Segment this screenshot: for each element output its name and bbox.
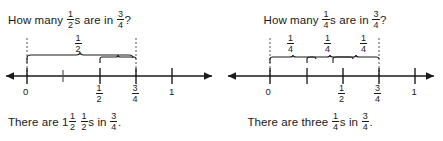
question-target-fraction: 3 4 (117, 10, 124, 31)
question-unit-fraction: 1 4 (322, 10, 329, 31)
number-line-quarter: 1 4 1 4 1 4 0 1 2 (222, 34, 443, 100)
answer-count-whole: 1 (62, 117, 69, 129)
answer-text-half: There are 1 1 2 1 2 s in 3 4 . (8, 112, 121, 133)
brace-label-quarter-3: 1 4 (360, 34, 368, 55)
question-unit-fraction: 1 2 (67, 10, 74, 31)
brace-half-to-threequarter (100, 55, 136, 63)
answer-text-quarter: There are three 1 4 s in 3 4 . (248, 112, 373, 133)
question-prefix: How many (8, 15, 63, 27)
brace-half-to-threequarter (333, 55, 379, 63)
axis-arrow-right (204, 72, 212, 80)
tick-label-1: 1 (169, 86, 174, 97)
panel-quarter: How many 1 4 s are in 3 4 ? (222, 0, 443, 141)
tick-label-half: 1 2 (95, 84, 103, 105)
answer-unit-fraction: 1 2 (81, 112, 88, 133)
tick-label-threequarter: 3 4 (131, 84, 139, 105)
tick-label-threequarter: 3 4 (374, 84, 382, 105)
axis-arrow-right (426, 72, 434, 80)
answer-prefix: There are (8, 117, 59, 129)
number-line-half: 1 2 0 1 2 3 4 1 (0, 34, 222, 100)
brace-0-to-quarter (270, 55, 316, 63)
answer-middle: s in (340, 117, 358, 129)
question-middle: s are in (330, 15, 369, 27)
panel-half: How many 1 2 s are in 3 4 ? (0, 0, 222, 141)
question-suffix: ? (380, 15, 387, 27)
axis-arrow-left (6, 72, 14, 80)
tick-label-half: 1 2 (338, 84, 346, 105)
answer-suffix: . (370, 117, 373, 129)
brace-label-quarter-2: 1 4 (324, 34, 332, 55)
question-prefix: How many (264, 15, 319, 27)
fraction-worksheet: How many 1 2 s are in 3 4 ? (0, 0, 443, 141)
answer-prefix: There are three (248, 117, 329, 129)
tick-label-0: 0 (266, 86, 271, 97)
answer-suffix: . (118, 117, 121, 129)
answer-unit-fraction: 1 4 (332, 112, 339, 133)
axis-arrow-left (228, 72, 236, 80)
answer-middle: s in (88, 117, 106, 129)
answer-count: 1 1 2 (62, 112, 77, 133)
question-target-fraction: 3 4 (372, 10, 379, 31)
answer-target-fraction: 3 4 (362, 112, 369, 133)
answer-target-fraction: 3 4 (110, 112, 117, 133)
brace-label-half: 1 2 (74, 34, 82, 55)
brace-label-quarter-1: 1 4 (287, 34, 295, 55)
question-text-quarter: How many 1 4 s are in 3 4 ? (264, 10, 387, 31)
question-text-half: How many 1 2 s are in 3 4 ? (8, 10, 131, 31)
tick-label-0: 0 (23, 86, 28, 97)
tick-label-1: 1 (412, 86, 417, 97)
question-suffix: ? (125, 15, 132, 27)
question-middle: s are in (75, 15, 114, 27)
brace-quarter-to-half (307, 55, 353, 63)
